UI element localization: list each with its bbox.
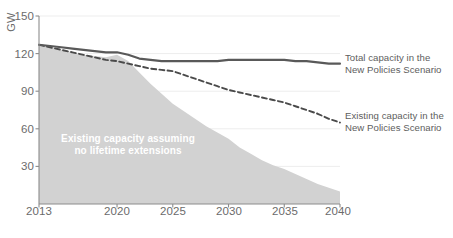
area-annotation-line2: no lifetime extensions <box>48 145 208 157</box>
area-annotation-label: Existing capacity assuming no lifetime e… <box>48 133 208 158</box>
capacity-outlook-chart: GW 150 120 90 60 30 2013 2020 2025 2030 … <box>0 0 453 238</box>
area-annotation-line1: Existing capacity assuming <box>48 133 208 145</box>
legend-existing-line2: New Policies Scenario <box>345 122 451 134</box>
x-axis-tick-2013: 2013 <box>26 205 52 217</box>
legend-total-line1: Total capacity in the <box>345 52 451 64</box>
x-axis-tick-2030: 2030 <box>216 205 242 217</box>
legend-existing-line1: Existing capacity in the <box>345 110 451 122</box>
x-axis-tick-2035: 2035 <box>272 205 298 217</box>
x-axis-tick-2020: 2020 <box>104 205 130 217</box>
x-axis-tick-2040: 2040 <box>325 205 351 217</box>
series-existing-no-extensions-area <box>39 45 340 204</box>
legend-item-existing-capacity: Existing capacity in the New Policies Sc… <box>345 110 451 133</box>
legend-item-total-capacity: Total capacity in the New Policies Scena… <box>345 52 451 75</box>
legend-total-line2: New Policies Scenario <box>345 64 451 76</box>
x-axis-tick-2025: 2025 <box>160 205 186 217</box>
